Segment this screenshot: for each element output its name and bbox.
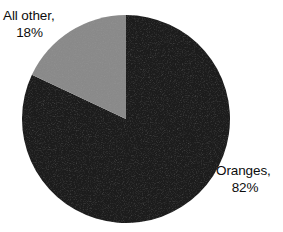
pie-label-all-other: All other, 18%	[2, 7, 64, 41]
pie-label-all-other-name: All other,	[2, 7, 64, 24]
pie-label-oranges: Oranges, 82%	[216, 162, 281, 196]
pie-label-oranges-name: Oranges,	[216, 162, 281, 179]
pie-label-all-other-value: 18%	[2, 24, 64, 41]
pie-label-oranges-value: 82%	[216, 179, 281, 196]
pie-chart: All other, 18% Oranges, 82%	[0, 0, 283, 232]
